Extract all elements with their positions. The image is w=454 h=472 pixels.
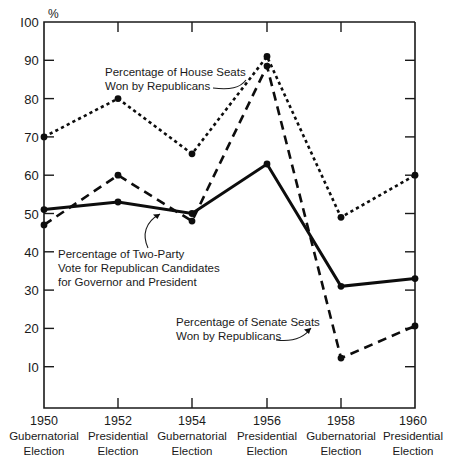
x-tick-label-sub1-1950: Gubernatorial	[9, 430, 79, 442]
annotation-two-party-vote: Percentage of Two-Party Vote for Republi…	[58, 214, 220, 288]
annotation-vote-leader	[145, 214, 160, 248]
y-tick-label-10: I0	[28, 360, 39, 375]
chart-figure: % I00 90 80 70 60 50 40 30 20 I0	[0, 0, 454, 472]
annotation-house-line1: Percentage of House Seats	[105, 66, 246, 78]
datapoint-vote-1954	[189, 210, 196, 217]
y-tick-labels: % I00 90 80 70 60 50 40 30 20 I0	[20, 7, 59, 375]
plot-axes	[44, 22, 415, 408]
datapoint-vote-1960	[412, 275, 419, 282]
datapoint-house-1956	[264, 53, 271, 60]
datapoint-senate-1954	[189, 218, 196, 225]
y-tick-label-70: 70	[24, 130, 39, 145]
datapoint-vote-1952	[115, 199, 122, 206]
x-tick-label-sub2-1956: Election	[247, 445, 288, 457]
datapoint-senate-1958	[338, 355, 345, 362]
datapoint-vote-1950	[41, 206, 48, 213]
annotation-senate-seats: Percentage of Senate Seats Won by Republ…	[176, 316, 320, 342]
y-tick-label-50: 50	[24, 207, 39, 222]
y-tick-label-90: 90	[24, 53, 39, 68]
x-tick-label-year-1952: 1952	[104, 414, 132, 428]
datapoint-senate-1950	[41, 222, 48, 229]
datapoint-house-1958	[338, 214, 345, 221]
x-tick-label-sub1-1954: Gubernatorial	[157, 430, 227, 442]
datapoint-senate-1960	[412, 323, 419, 330]
x-tick-label-sub2-1960: Election	[393, 445, 434, 457]
x-tick-label-year-1950: 1950	[30, 414, 58, 428]
x-tick-label-year-1958: 1958	[327, 414, 355, 428]
annotation-senate-line1: Percentage of Senate Seats	[176, 316, 320, 328]
annotation-vote-line1: Percentage of Two-Party	[58, 248, 185, 260]
x-tick-label-sub1-1952: Presidential	[88, 430, 148, 442]
series-house-seats	[41, 53, 419, 221]
x-tick-label-year-1954: 1954	[178, 414, 206, 428]
x-tick-label-sub1-1958: Gubernatorial	[306, 430, 376, 442]
annotation-senate-line2: Won by Republicans	[176, 330, 282, 342]
y-tick-label-100: I00	[20, 15, 39, 30]
datapoint-house-1952	[115, 95, 122, 102]
x-tick-labels: 1950 Gubernatorial Election 1952 Preside…	[9, 414, 443, 457]
datapoint-house-1954	[189, 150, 196, 157]
datapoint-vote-1958	[338, 283, 345, 290]
series-house-line	[44, 57, 415, 218]
x-tick-label-year-1960: 1960	[399, 414, 427, 428]
annotation-senate-arrowhead	[304, 328, 311, 334]
y-tick-label-40: 40	[24, 245, 39, 260]
y-tick-label-30: 30	[24, 283, 39, 298]
y-tick-label-80: 80	[24, 92, 39, 107]
x-tick-label-sub2-1952: Election	[98, 445, 139, 457]
x-tick-label-sub1-1960: Presidential	[383, 430, 443, 442]
x-tick-label-sub2-1958: Election	[321, 445, 362, 457]
chart-svg: % I00 90 80 70 60 50 40 30 20 I0	[0, 0, 454, 472]
annotation-house-seats: Percentage of House Seats Won by Republi…	[105, 66, 246, 92]
x-tick-label-sub1-1956: Presidential	[237, 430, 297, 442]
x-tick-label-sub2-1954: Election	[172, 445, 213, 457]
x-tick-label-sub2-1950: Election	[24, 445, 65, 457]
y-tick-label-60: 60	[24, 168, 39, 183]
annotation-vote-line2: Vote for Republican Candidates	[58, 262, 220, 274]
series-senate-line	[44, 66, 415, 358]
axis-frame	[44, 22, 415, 408]
y-axis-unit-label: %	[48, 7, 59, 21]
datapoint-senate-1952	[115, 172, 122, 179]
datapoint-house-1950	[41, 134, 48, 141]
y-tick-label-20: 20	[24, 321, 39, 336]
annotation-vote-line3: for Governor and President	[58, 276, 198, 288]
datapoint-vote-1956	[264, 161, 271, 168]
annotation-house-line2: Won by Republicans	[105, 80, 211, 92]
annotation-house-leader	[213, 80, 246, 89]
datapoint-senate-1956	[264, 63, 271, 70]
x-tick-label-year-1956: 1956	[253, 414, 281, 428]
datapoint-house-1960	[412, 172, 419, 179]
